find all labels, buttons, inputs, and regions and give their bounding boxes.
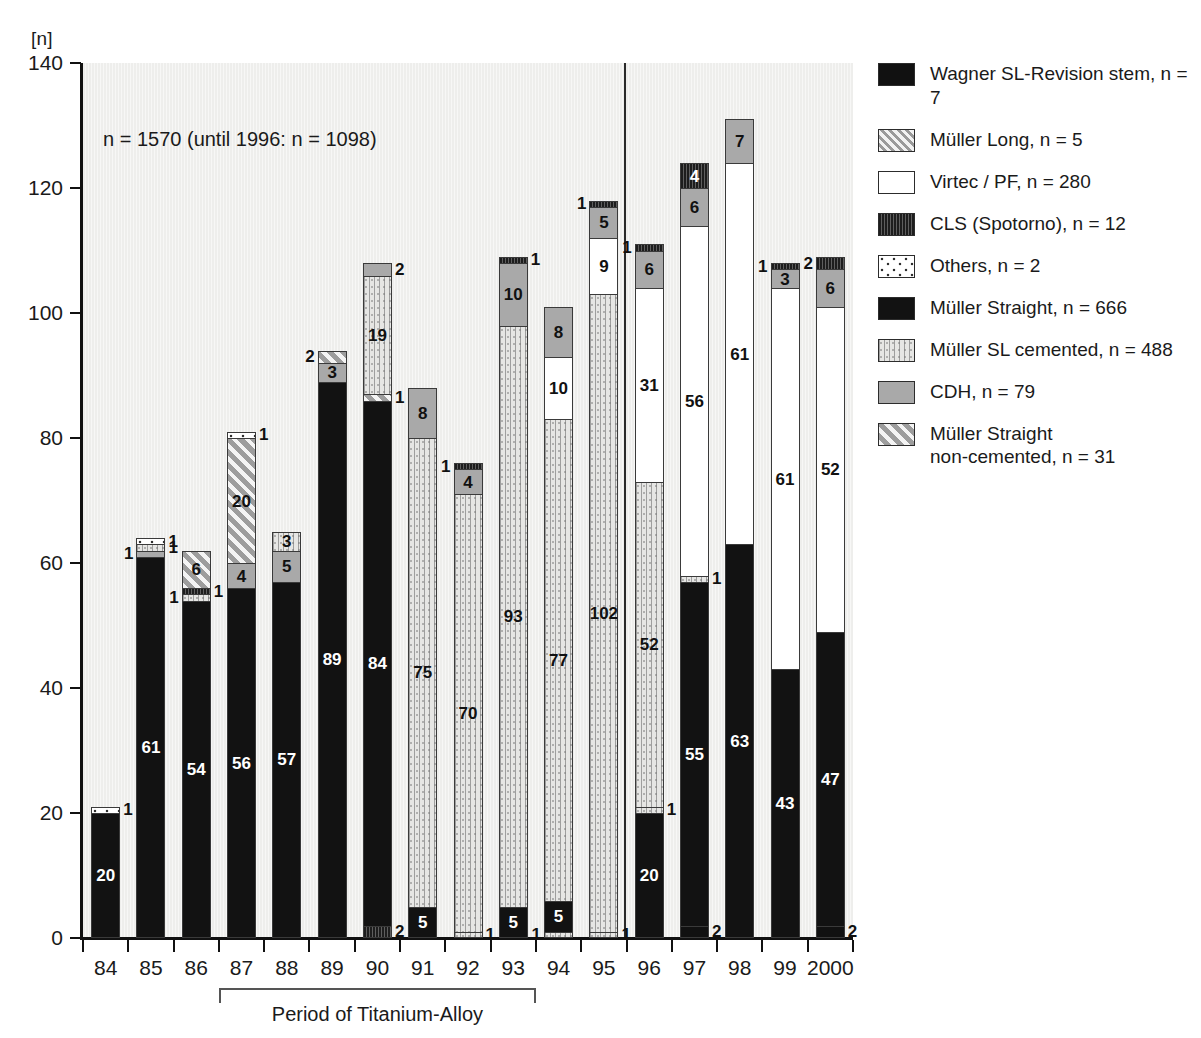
bar-segment-87-msnc[interactable]: 20 [227,438,256,563]
bar-segment-98-virtec[interactable]: 61 [725,163,754,544]
bar-segment-93-cls[interactable]: 1 [499,257,528,263]
bar-segment-85-mslc[interactable]: 1 [136,544,165,550]
bar-89[interactable]: 8932 [318,351,347,939]
bar-segment-92-mslc[interactable]: 70 [454,494,483,932]
bar-86[interactable]: 54116 [182,551,211,939]
bar-segment-95-cls[interactable]: 1 [589,201,618,207]
bar-segment-92-cls[interactable]: 1 [454,463,483,469]
bar-segment-94-mslc[interactable]: 77 [544,419,573,900]
legend-item-msnc[interactable]: Müller Straight non-cemented, n = 31 [878,422,1196,470]
bar-98[interactable]: 63617 [725,119,754,938]
bar-segment-97-wagner[interactable]: 2 [680,926,709,939]
bar-segment-95-mslc[interactable]: 102 [589,294,618,932]
bar-segment-2000-cls[interactable]: 2 [816,257,845,270]
bar-segment-97-mslc[interactable]: 1 [680,576,709,582]
bar-91[interactable]: 5758 [408,388,437,938]
legend-item-virtec[interactable]: Virtec / PF, n = 280 [878,170,1196,194]
bar-segment-95-mslc[interactable]: 1 [589,932,618,938]
bar-segment-99-cdh[interactable]: 3 [771,269,800,288]
bar-segment-94-mslc[interactable]: 1 [544,932,573,938]
bar-segment-88-cdh[interactable]: 5 [272,551,301,582]
bar-segment-85-mstr[interactable]: 61 [136,557,165,938]
legend-item-cdh[interactable]: CDH, n = 79 [878,380,1196,404]
bar-segment-96-virtec[interactable]: 31 [635,288,664,482]
bar-segment-98-mstr[interactable]: 63 [725,544,754,938]
bar-88[interactable]: 5753 [272,532,301,938]
bar-segment-97-virtec[interactable]: 56 [680,226,709,576]
bar-segment-93-mstr[interactable]: 5 [499,907,528,938]
bar-segment-97-mstr[interactable]: 55 [680,582,709,926]
bar-segment-91-cdh[interactable]: 8 [408,388,437,438]
bar-segment-2000-wagner[interactable]: 2 [816,926,845,939]
y-axis-tick-120: 120 [28,176,81,200]
bar-85[interactable]: 61111 [136,538,165,938]
bar-segment-84-others[interactable]: 1 [91,807,120,813]
bar-90[interactable]: 2841192 [363,263,392,938]
bar-93[interactable]: 593101 [499,251,528,939]
bar-segment-93-mslc[interactable]: 93 [499,326,528,907]
bar-segment-90-mslc[interactable]: 19 [363,276,392,395]
bar-segment-94-virtec[interactable]: 10 [544,357,573,420]
bar-segment-84-mstr[interactable]: 20 [91,813,120,938]
bar-segment-86-mstr[interactable]: 54 [182,601,211,939]
legend-item-cls[interactable]: CLS (Spotorno), n = 12 [878,212,1196,236]
bar-segment-87-others[interactable]: 1 [227,432,256,438]
bar-94[interactable]: 1577108 [544,307,573,938]
bar-segment-91-mstr[interactable]: 5 [408,907,437,938]
bar-segment-91-mslc[interactable]: 75 [408,438,437,907]
bar-97[interactable]: 25515664 [680,163,709,938]
bar-segment-2000-virtec[interactable]: 52 [816,307,845,632]
bar-segment-86-msnc[interactable]: 6 [182,551,211,589]
bar-segment-90-mstr[interactable]: 84 [363,401,392,926]
segment-value-label: 1 [441,457,450,477]
legend-item-wagner[interactable]: Wagner SL-Revision stem, n = 7 [878,62,1196,110]
bar-segment-90-cls[interactable]: 2 [363,926,392,939]
bar-segment-88-mslc[interactable]: 3 [272,532,301,551]
bar-segment-96-mslc[interactable]: 52 [635,482,664,807]
bar-segment-95-cdh[interactable]: 5 [589,207,618,238]
bar-segment-99-virtec[interactable]: 61 [771,288,800,669]
bar-96[interactable]: 201523161 [635,244,664,938]
bar-segment-85-cdh[interactable]: 1 [136,551,165,557]
bar-segment-96-cls[interactable]: 1 [635,244,664,250]
bar-segment-99-cls[interactable]: 1 [771,263,800,269]
bar-segment-96-mstr[interactable]: 20 [635,813,664,938]
legend-item-others[interactable]: Others, n = 2 [878,254,1196,278]
bar-segment-87-mstr[interactable]: 56 [227,588,256,938]
bar-segment-85-others[interactable]: 1 [136,538,165,544]
bar-segment-88-mstr[interactable]: 57 [272,582,301,938]
bar-segment-89-msnc[interactable]: 2 [318,351,347,364]
bar-84[interactable]: 201 [91,807,120,938]
bar-segment-94-cdh[interactable]: 8 [544,307,573,357]
bar-92[interactable]: 17041 [454,463,483,938]
bar-segment-2000-mstr[interactable]: 47 [816,632,845,926]
bar-segment-89-cdh[interactable]: 3 [318,363,347,382]
bar-segment-96-mslc[interactable]: 1 [635,807,664,813]
bar-segment-94-mstr[interactable]: 5 [544,901,573,932]
x-axis-label-90: 90 [366,956,389,980]
bar-segment-87-cdh[interactable]: 4 [227,563,256,588]
bar-segment-90-msnc[interactable]: 1 [363,394,392,400]
bar-segment-98-cdh[interactable]: 7 [725,119,754,163]
bar-segment-95-virtec[interactable]: 9 [589,238,618,294]
bar-segment-86-cls[interactable]: 1 [182,588,211,594]
bar-segment-92-cdh[interactable]: 4 [454,469,483,494]
bar-segment-93-cdh[interactable]: 10 [499,263,528,326]
legend-item-mstr[interactable]: Müller Straight, n = 666 [878,296,1196,320]
legend-item-mlong[interactable]: Müller Long, n = 5 [878,128,1196,152]
bar-segment-96-cdh[interactable]: 6 [635,251,664,289]
bar-segment-92-mslc[interactable]: 1 [454,932,483,938]
bar-2000[interactable]: 2475262 [816,257,845,938]
bar-segment-2000-cdh[interactable]: 6 [816,269,845,307]
bar-99[interactable]: 436131 [771,263,800,938]
legend-item-mslc[interactable]: Müller SL cemented, n = 488 [878,338,1196,362]
segment-value-label: 1 [622,238,631,258]
bar-segment-97-cls[interactable]: 4 [680,163,709,188]
bar-87[interactable]: 564201 [227,432,256,938]
bar-segment-90-cdh[interactable]: 2 [363,263,392,276]
bar-segment-86-mslc[interactable]: 1 [182,594,211,600]
bar-segment-97-cdh[interactable]: 6 [680,188,709,226]
bar-95[interactable]: 1102951 [589,201,618,939]
bar-segment-89-mstr[interactable]: 89 [318,382,347,938]
bar-segment-99-mstr[interactable]: 43 [771,669,800,938]
